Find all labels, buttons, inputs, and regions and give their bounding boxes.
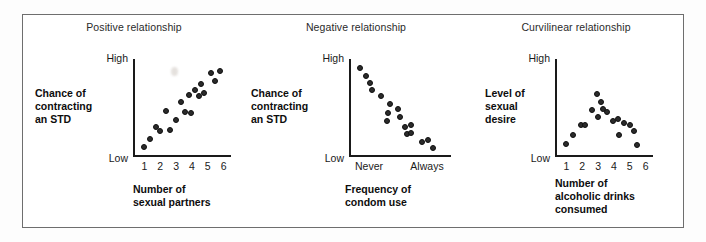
data-point (217, 68, 223, 74)
y-axis-title-line: Chance of (251, 87, 308, 100)
y-axis-title: Level of sexual desire (485, 87, 525, 126)
data-point (582, 122, 588, 128)
x-tick-label: 1 (141, 160, 147, 172)
x-axis-line (555, 155, 653, 157)
data-point (594, 91, 600, 97)
x-axis-line (133, 155, 231, 157)
y-axis-title-line: Level of (485, 87, 525, 100)
data-point (408, 122, 414, 128)
data-point (369, 87, 375, 93)
x-axis-title: Number of sexual partners (133, 183, 233, 209)
data-point (163, 108, 169, 114)
y-tick-low: Low (109, 152, 128, 164)
y-tick-high: High (106, 52, 128, 64)
figure-root: Positive relationship Chance of contract… (0, 0, 706, 242)
x-axis-title-line: Number of (555, 177, 675, 190)
data-point (367, 80, 373, 86)
data-point (178, 99, 184, 105)
data-point (188, 110, 194, 116)
x-tick-labels: 123456 (555, 160, 653, 174)
data-point (385, 110, 391, 116)
data-point (598, 99, 604, 105)
data-point (198, 81, 204, 87)
x-tick-label: 5 (627, 160, 633, 172)
data-point (182, 109, 188, 115)
data-point (595, 114, 601, 120)
x-tick-labels: 123456 (133, 160, 231, 174)
x-axis-title: Number of alcoholic drinks consumed (555, 177, 675, 216)
x-axis-title: Frequency of condom use (345, 183, 455, 209)
data-point (173, 117, 179, 123)
data-point (208, 70, 214, 76)
data-point (563, 141, 569, 147)
x-tick-label: Always (410, 160, 443, 172)
data-point (363, 73, 369, 79)
x-tick-label: 3 (595, 160, 601, 172)
figure-border: Positive relationship Chance of contract… (22, 14, 684, 228)
data-point (212, 78, 218, 84)
scatter-plot-area: High Low 123456 (133, 59, 231, 157)
data-point (357, 65, 363, 71)
data-point (397, 114, 403, 120)
data-point (167, 127, 173, 133)
y-tick-high: High (528, 52, 550, 64)
y-axis-title: Chance of contracting an STD (251, 87, 308, 126)
x-axis-line (349, 155, 451, 157)
y-axis-title: Chance of contracting an STD (35, 87, 92, 126)
scan-smudge (171, 67, 178, 76)
data-point (589, 107, 595, 113)
y-axis-line (133, 59, 135, 157)
x-tick-label: 3 (173, 160, 179, 172)
data-point (615, 116, 621, 122)
x-tick-label: 2 (579, 160, 585, 172)
x-tick-label: 1 (563, 160, 569, 172)
panel-curvilinear-relationship: Curvilinear relationship Level of sexual… (467, 15, 685, 229)
y-axis-line (349, 59, 351, 157)
y-axis-title-line: sexual (485, 100, 525, 113)
data-point (627, 122, 633, 128)
data-point (430, 145, 436, 151)
data-point (425, 137, 431, 143)
x-tick-label: Never (355, 160, 383, 172)
scatter-plot-area: High Low NeverAlways (349, 59, 451, 157)
x-tick-labels: NeverAlways (349, 160, 451, 174)
panel-negative-relationship: Negative relationship Chance of contract… (245, 15, 467, 229)
x-axis-title-line: consumed (555, 203, 675, 216)
data-point (395, 106, 401, 112)
y-axis-title-line: an STD (35, 113, 92, 126)
y-tick-high: High (322, 52, 344, 64)
x-axis-title-line: condom use (345, 196, 455, 209)
data-point (378, 93, 384, 99)
panel-title: Negative relationship (245, 21, 467, 33)
y-axis-title-line: Chance of (35, 87, 92, 100)
y-axis-title-line: desire (485, 113, 525, 126)
x-tick-label: 6 (643, 160, 649, 172)
data-point (604, 109, 610, 115)
y-tick-low: Low (531, 152, 550, 164)
x-axis-title-line: Frequency of (345, 183, 455, 196)
x-tick-label: 5 (205, 160, 211, 172)
panel-title: Positive relationship (23, 21, 245, 33)
data-point (387, 101, 393, 107)
data-point (201, 90, 207, 96)
x-tick-label: 2 (157, 160, 163, 172)
y-axis-line (555, 59, 557, 157)
x-axis-title-line: sexual partners (133, 196, 233, 209)
panel-positive-relationship: Positive relationship Chance of contract… (23, 15, 245, 229)
data-point (631, 128, 637, 134)
y-axis-title-line: contracting (35, 100, 92, 113)
data-point (616, 132, 622, 138)
data-point (186, 92, 192, 98)
y-axis-title-line: an STD (251, 113, 308, 126)
x-tick-label: 4 (611, 160, 617, 172)
scatter-plot-area: High Low 123456 (555, 59, 653, 157)
x-axis-title-line: alcoholic drinks (555, 190, 675, 203)
data-point (192, 87, 198, 93)
panel-title: Curvilinear relationship (467, 21, 685, 33)
x-tick-label: 6 (221, 160, 227, 172)
data-point (147, 136, 153, 142)
y-tick-low: Low (325, 152, 344, 164)
data-point (141, 144, 147, 150)
data-point (570, 132, 576, 138)
data-point (157, 128, 163, 134)
